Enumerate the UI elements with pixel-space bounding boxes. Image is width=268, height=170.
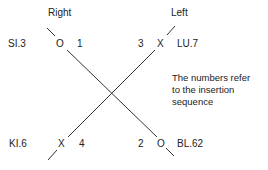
- note-line-2: to the insertion: [172, 84, 250, 96]
- left-side-label: Left: [171, 7, 188, 18]
- note-line-1: The numbers refer: [172, 72, 250, 84]
- sequence-number-3: 3: [138, 38, 144, 49]
- note-line-3: sequence: [172, 96, 250, 108]
- sequence-number-1: 1: [77, 38, 83, 49]
- needle-marker-x-icon: X: [157, 38, 164, 49]
- point-label-si3: SI.3: [8, 38, 26, 49]
- sequence-note: The numbers refer to the insertion seque…: [172, 72, 250, 108]
- sequence-number-4: 4: [79, 138, 85, 149]
- sequence-number-2: 2: [138, 138, 144, 149]
- needle-marker-o-icon: O: [56, 38, 64, 49]
- needle-marker-x-icon: X: [58, 138, 65, 149]
- point-label-ki6: KI.6: [9, 138, 27, 149]
- right-side-label: Right: [48, 7, 71, 18]
- needle-marker-o-icon: O: [157, 138, 165, 149]
- point-label-lu7: LU.7: [177, 38, 198, 49]
- point-label-bl62: BL.62: [177, 138, 203, 149]
